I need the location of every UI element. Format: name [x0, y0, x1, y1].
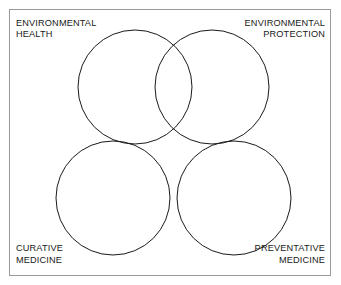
circle-environmental-health — [78, 30, 192, 144]
label-environmental-health: ENVIRONMENTAL HEALTH — [16, 18, 96, 41]
label-environmental-protection: ENVIRONMENTAL PROTECTION — [245, 18, 325, 41]
label-curative-medicine: CURATIVE MEDICINE — [16, 243, 63, 266]
circle-curative-medicine — [56, 141, 170, 255]
circle-environmental-protection — [155, 30, 269, 144]
diagram-canvas: ENVIRONMENTAL HEALTH ENVIRONMENTAL PROTE… — [0, 0, 341, 285]
circle-preventative-medicine — [177, 141, 291, 255]
label-preventative-medicine: PREVENTATIVE MEDICINE — [255, 243, 325, 266]
